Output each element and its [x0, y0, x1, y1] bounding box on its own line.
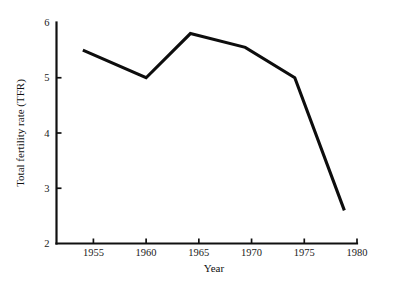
- x-tick-label: 1970: [241, 247, 262, 258]
- y-tick-label: 6: [44, 17, 49, 28]
- y-tick-label: 3: [44, 183, 49, 194]
- x-tick-label: 1960: [136, 247, 157, 258]
- x-tick-label: 1965: [188, 247, 209, 258]
- line-chart: 23456 195519601965197019751980 Year Tota…: [0, 0, 398, 286]
- x-axis-tick-labels: 195519601965197019751980: [83, 247, 368, 258]
- chart-tick-marks: [57, 78, 358, 244]
- tfr-series-line: [83, 34, 344, 211]
- x-tick-label: 1980: [347, 247, 368, 258]
- y-axis-tick-labels: 23456: [44, 17, 50, 249]
- y-tick-label: 5: [44, 72, 49, 83]
- y-tick-label: 4: [44, 128, 50, 139]
- chart-figure: 23456 195519601965197019751980 Year Tota…: [0, 0, 398, 286]
- x-tick-label: 1955: [83, 247, 104, 258]
- y-axis-title: Total fertility rate (TFR): [14, 79, 27, 187]
- chart-axes: [57, 23, 358, 244]
- y-tick-label: 2: [44, 238, 49, 249]
- x-axis-title: Year: [204, 262, 225, 274]
- x-tick-label: 1975: [294, 247, 315, 258]
